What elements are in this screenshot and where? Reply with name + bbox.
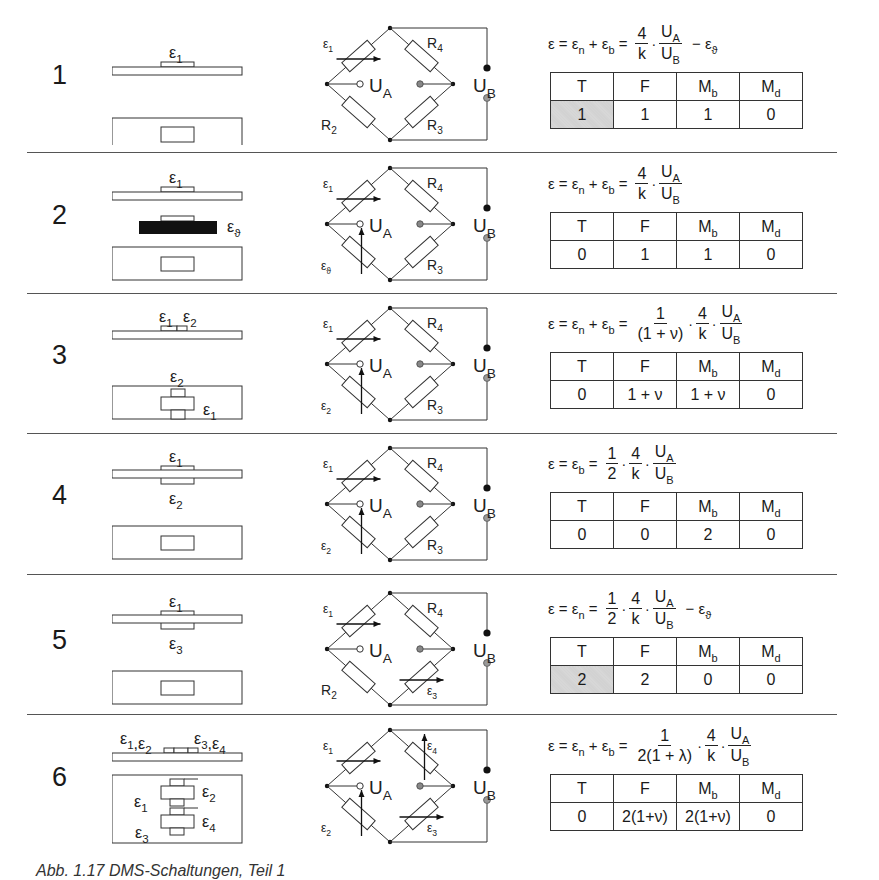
arm-label-bottom-left: R2: [321, 682, 337, 701]
row-divider: [27, 574, 837, 575]
fraction-denominator: UB: [659, 184, 682, 205]
table-cell: 1: [677, 241, 740, 269]
fraction-numerator: 4: [629, 444, 642, 464]
header-Mb: Mb: [677, 353, 740, 381]
beam-side-view: [112, 470, 242, 478]
table-cell: 0: [614, 521, 677, 549]
gauge-label-bottom: ε3: [169, 635, 183, 656]
table-cell: 1: [614, 101, 677, 129]
fraction-numerator: UA: [653, 587, 676, 609]
fraction: 12: [606, 444, 619, 483]
wheatstone-bridge: UAUBε1R4εϑR3: [315, 158, 515, 292]
equation-lhs: ε = εb =: [548, 455, 598, 472]
header-F: F: [614, 775, 677, 803]
fraction-denominator: (1 + ν): [635, 324, 685, 343]
header-T: T: [551, 213, 614, 241]
arm-label-bottom-right: ε3: [427, 684, 437, 701]
bridge-arm-bottom-right: [390, 224, 453, 280]
ub-terminal-positive: [483, 344, 490, 351]
multiply-dot: ·: [621, 456, 626, 472]
arm-label-bottom-right: ε3: [427, 821, 437, 838]
strain-equation: ε = εn + εb =1(1 + ν)·4k·UAUB: [548, 302, 744, 345]
header-T: T: [551, 353, 614, 381]
table-cell: 0: [551, 381, 614, 409]
specimen-sketch: ε1: [112, 10, 247, 145]
table-cell: 0: [677, 666, 740, 694]
fraction-numerator: 4: [705, 726, 718, 746]
ua-label: UA: [369, 777, 393, 803]
row-divider: [27, 152, 837, 153]
strain-equation: ε = εn + εb =4k·UAUB− εϑ: [548, 22, 718, 65]
load-factor-table: TFMbMd0020: [550, 492, 803, 549]
strain-gauge: [161, 681, 194, 695]
arm-label-bottom-left: εϑ: [321, 259, 331, 276]
header-Md: Md: [740, 493, 803, 521]
multiply-dot: ·: [645, 601, 650, 617]
bridge-arm-top-right: [390, 593, 453, 649]
header-Md: Md: [740, 638, 803, 666]
arm-label-bottom-left: ε2: [321, 539, 331, 556]
equation-lhs: ε = εn + εb =: [548, 315, 627, 332]
equation-lhs: ε = εn + εb =: [548, 175, 627, 192]
fraction: UAUB: [653, 442, 676, 485]
fraction-numerator: 1: [606, 444, 619, 464]
ua-terminal-filled: [417, 501, 423, 507]
row-divider: [27, 714, 837, 715]
beam-side-view: [112, 192, 242, 200]
table-value-row: 0110: [551, 241, 803, 269]
header-Md: Md: [740, 213, 803, 241]
row-number: 2: [52, 200, 67, 231]
fraction: UAUB: [659, 22, 682, 65]
strain-equation: ε = εn + εb =12(1 + λ)·4k·UAUB: [548, 724, 753, 767]
specimen-sketch: ε1ε2ε2ε1: [112, 290, 247, 425]
table-cell: 0: [740, 666, 803, 694]
gauge-label-right: ε3,ε4: [194, 730, 226, 756]
arm-label-bottom-right: R3: [427, 117, 443, 136]
fraction: 4k: [635, 164, 648, 203]
arm-label-top-left: ε1: [323, 602, 333, 619]
table-header-row: TFMbMd: [551, 353, 803, 381]
bridge-arm-top-right: [390, 168, 453, 224]
header-Md: Md: [740, 775, 803, 803]
header-F: F: [614, 638, 677, 666]
table-value-row: 2200: [551, 666, 803, 694]
specimen-sketch: ε1ε2: [112, 430, 247, 565]
equation-suffix: − εϑ: [692, 35, 718, 52]
bridge-arm-top-right: [390, 308, 453, 364]
multiply-dot: ·: [621, 601, 626, 617]
figure-caption: Abb. 1.17 DMS-Schaltungen, Teil 1: [36, 862, 285, 880]
fraction-numerator: UA: [653, 442, 676, 464]
arm-label-top-right: R4: [427, 455, 443, 474]
arm-label-top-left: ε1: [323, 37, 333, 54]
header-T: T: [551, 775, 614, 803]
header-T: T: [551, 493, 614, 521]
table-cell: 1 + ν: [614, 381, 677, 409]
arm-label-top-right: R4: [427, 35, 443, 54]
ua-terminal-open: [357, 646, 363, 652]
fraction-numerator: 1: [658, 726, 671, 746]
specimen-sketch: ε1ε3: [112, 575, 247, 710]
fraction: UAUB: [653, 587, 676, 630]
row-number: 4: [52, 480, 67, 511]
strain-gauge: [164, 748, 174, 753]
load-factor-table: TFMbMd1110: [550, 72, 803, 129]
header-F: F: [614, 213, 677, 241]
bridge-arm-top-right: [390, 28, 453, 84]
arm-label-top-left: ε1: [323, 317, 333, 334]
equation-lhs: ε = εn + εb =: [548, 737, 627, 754]
table-cell: 0: [740, 521, 803, 549]
fraction-numerator: UA: [720, 302, 743, 324]
multiply-dot: ·: [721, 738, 726, 754]
bridge-arm-bottom-right: [390, 649, 453, 705]
beam-side-view: [112, 67, 242, 75]
ua-terminal-filled: [417, 361, 423, 367]
fraction-denominator: 2(1 + λ): [635, 746, 694, 765]
ub-terminal-positive: [483, 629, 490, 636]
strain-gauge: [174, 748, 188, 753]
bridge-arm-top-right: [390, 448, 453, 504]
fraction-numerator: UA: [659, 22, 682, 44]
fraction: 4k: [635, 24, 648, 63]
strain-gauge: [161, 257, 194, 271]
strain-gauge: [170, 808, 184, 815]
compensation-block: [139, 221, 217, 234]
